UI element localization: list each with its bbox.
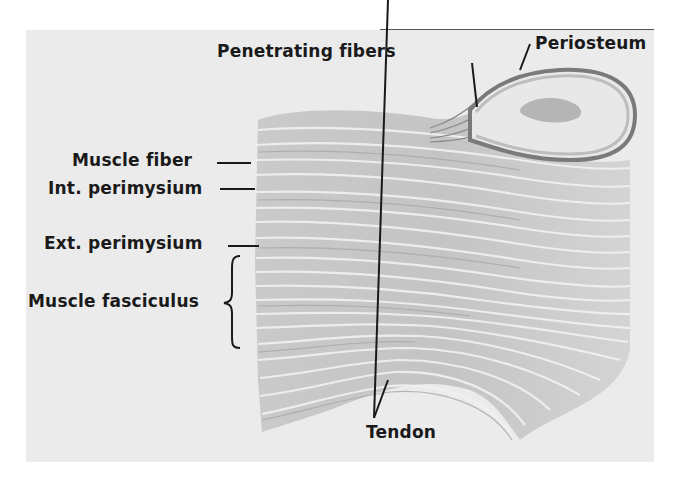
label-muscle-fasciculus: Muscle fasciculus [28, 293, 199, 310]
label-tendon: Tendon [366, 424, 436, 441]
label-int-perimysium: Int. perimysium [48, 180, 202, 197]
label-ext-perimysium: Ext. perimysium [44, 235, 203, 252]
label-muscle-fiber: Muscle fiber [72, 152, 192, 169]
label-periosteum: Periosteum [535, 35, 646, 52]
label-penetrating-fibers: Penetrating fibers [217, 43, 396, 60]
fasciculus-brace-icon [224, 256, 240, 348]
